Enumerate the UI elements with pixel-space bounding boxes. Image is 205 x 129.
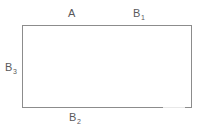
edge-label-b1-base: B (133, 7, 141, 19)
edge-label-b2: B2 (69, 112, 81, 123)
edge-label-a: A (68, 8, 76, 19)
edge-label-b1: B1 (133, 8, 145, 19)
edge-label-b3-subscript: 3 (13, 68, 17, 75)
edge-label-b2-base: B (69, 111, 77, 123)
rectangle-outline (22, 25, 192, 108)
edge-label-b1-subscript: 1 (141, 14, 145, 21)
edge-label-b2-subscript: 2 (77, 118, 81, 125)
edge-label-b3-base: B (5, 61, 13, 73)
bottom-edge-fade-segment (163, 107, 185, 108)
edge-label-b3: B3 (5, 62, 17, 73)
edge-label-a-base: A (68, 7, 76, 19)
geometry-figure: A B1 B3 B2 (0, 0, 205, 129)
